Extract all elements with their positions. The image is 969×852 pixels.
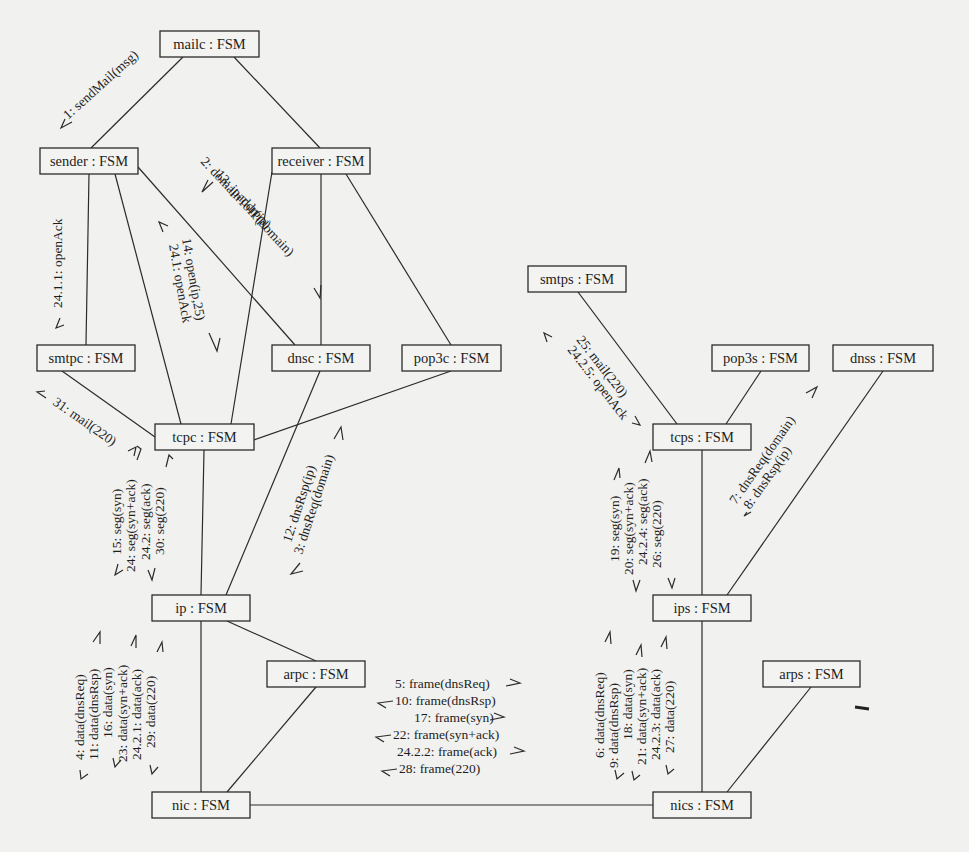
arrow-icon	[37, 391, 46, 398]
link-ip-arpc	[227, 621, 316, 661]
msg-group-ips-nics: 6: data(dnsReq) 9: data(dnsRsp) 18: data…	[592, 632, 677, 780]
message-label: 24.2.2: frame(ack)	[397, 744, 497, 759]
msg-group-receiver-dnsc: 2: domainToIP(domain) 13: ipaddr(ip)	[198, 154, 321, 298]
message-label: 24.1.1: openAck	[50, 218, 65, 308]
object-label: arpc : FSM	[283, 666, 348, 682]
message-label: 24: seg(syn+ack)	[123, 479, 138, 572]
object-pop3s: pop3s : FSM	[712, 345, 809, 371]
message-label: 20: seg(syn+ack)	[621, 482, 636, 575]
arrow-icon	[157, 642, 163, 652]
object-label: receiver : FSM	[278, 153, 365, 169]
object-arpc: arpc : FSM	[267, 661, 365, 687]
message-label: 18: data(syn)	[620, 669, 635, 740]
message-label: 6: data(dnsReq)	[592, 672, 607, 758]
msg-group-ip-nic: 4: data(dnsReq) 11: data(dnsRsp) 16: dat…	[72, 632, 163, 779]
object-sender: sender : FSM	[40, 148, 138, 174]
message-label: 4: data(dnsReq)	[72, 674, 87, 760]
message-label: 29: data(220)	[143, 676, 158, 748]
message-label: 19: seg(syn)	[607, 496, 622, 562]
object-nics: nics : FSM	[653, 792, 751, 818]
object-tcpc: tcpc : FSM	[155, 424, 254, 450]
msg-group-tcps-dnss: 7: dnsReq(domain) 8: dnsRsp(ip)	[726, 387, 817, 516]
arrow-icon	[202, 180, 213, 192]
object-smtpc: smtpc : FSM	[37, 345, 135, 371]
link-sender-smtpc	[86, 174, 89, 345]
object-nic: nic : FSM	[152, 792, 250, 818]
link-sender-tcpc	[115, 174, 181, 424]
object-label: mailc : FSM	[173, 36, 246, 52]
object-ips: ips : FSM	[653, 595, 751, 621]
communication-diagram: mailc : FSMsender : FSMreceiver : FSMsmt…	[0, 0, 969, 852]
object-label: tcps : FSM	[670, 429, 734, 445]
arrow-icon	[93, 632, 100, 644]
message-label: 31: mail(220)	[50, 394, 119, 449]
message-label: 28: frame(220)	[399, 761, 480, 776]
arrow-icon	[166, 455, 173, 467]
message-label: 13: ipaddr(ip)	[213, 167, 275, 232]
object-dnsc: dnsc : FSM	[272, 345, 370, 371]
object-arps: arps : FSM	[763, 661, 860, 687]
arrow-icon	[666, 765, 674, 774]
link-smtpc-tcpc	[62, 371, 155, 437]
object-label: ips : FSM	[673, 600, 730, 616]
message-label: 23: data(syn+ack)	[115, 665, 130, 762]
message-label: 26: seg(220)	[649, 500, 664, 568]
object-label: nic : FSM	[172, 797, 230, 813]
object-mailc: mailc : FSM	[160, 31, 259, 57]
link-mailc-receiver	[234, 57, 320, 148]
arrow-icon	[150, 765, 158, 774]
arrow-icon	[605, 632, 611, 644]
arrow-icon	[806, 387, 817, 398]
arrow-icon	[382, 769, 397, 776]
arrow-icon	[614, 468, 620, 480]
arrow-icon	[148, 568, 155, 580]
arrow-icon	[645, 451, 652, 463]
link-arps-nics	[727, 687, 811, 792]
arrow-icon	[334, 427, 343, 440]
msg-group-tcps-ips: 19: seg(syn) 20: seg(syn+ack) 24.2.4: se…	[607, 451, 675, 591]
arrow-icon	[615, 770, 624, 779]
arrow-icon	[159, 222, 168, 232]
arrow-icon	[376, 735, 391, 742]
object-label: nics : FSM	[670, 797, 734, 813]
arrow-icon	[636, 645, 642, 657]
arrow-icon	[632, 771, 640, 780]
msg-group-nic-nics: 5: frame(dnsReq) 10: frame(dnsRsp) 17: f…	[376, 676, 524, 776]
message-label: 24.2.3: data(ack)	[648, 669, 663, 760]
msg-group-smtpc-tcpc: 31: mail(220)	[37, 391, 136, 456]
message-label: 10: frame(dnsRsp)	[395, 693, 496, 708]
object-receiver: receiver : FSM	[272, 148, 370, 174]
message-label: 24.2: seg(ack)	[138, 484, 153, 560]
arrow-icon	[131, 635, 136, 648]
object-label: dnss : FSM	[850, 350, 916, 366]
arrow-icon	[668, 578, 675, 588]
message-label: 5: frame(dnsReq)	[395, 676, 490, 691]
arrow-icon	[506, 679, 520, 686]
arrow-icon	[633, 580, 640, 591]
message-label: 22: frame(syn+ack)	[393, 727, 499, 742]
arrow-icon	[115, 564, 123, 575]
message-label: 30: seg(220)	[152, 487, 167, 555]
object-ip: ip : FSM	[152, 595, 250, 621]
object-label: smtpc : FSM	[49, 350, 124, 366]
object-label: tcpc : FSM	[172, 429, 237, 445]
message-label: 15: seg(syn)	[109, 489, 124, 555]
arrow-icon	[56, 318, 64, 328]
msg-group-tcpc-ip: 15: seg(syn) 24: seg(syn+ack) 24.2: seg(…	[109, 446, 173, 580]
object-label: ip : FSM	[175, 600, 227, 616]
object-tcps: tcps : FSM	[653, 424, 751, 450]
arrow-icon	[661, 637, 667, 649]
arrow-icon	[291, 563, 303, 574]
message-label: 27: data(220)	[662, 681, 677, 753]
object-label: sender : FSM	[50, 153, 128, 169]
stray-mark	[855, 707, 869, 709]
msg-group-mailc-sender: 1: sendMail(msg)	[60, 47, 141, 128]
arrow-icon	[314, 285, 321, 298]
message-label: 16: data(syn)	[100, 667, 115, 738]
arrow-icon	[128, 447, 136, 456]
object-pop3c: pop3c : FSM	[402, 345, 501, 371]
link-arpc-nic	[227, 687, 316, 792]
message-label: 21: data(syn+ack)	[634, 668, 649, 765]
object-dnss: dnss : FSM	[833, 345, 933, 371]
link-tcpc-ip	[201, 450, 204, 595]
